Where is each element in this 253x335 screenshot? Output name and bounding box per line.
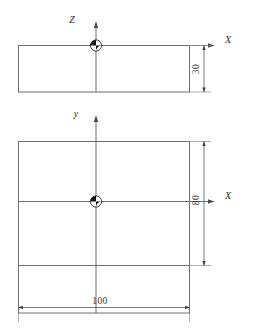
plan-view: y X 80 100 <box>19 108 232 322</box>
x-axis-label-top: X <box>224 34 232 45</box>
dim-30-value: 30 <box>191 64 201 74</box>
z-axis-label: Z <box>69 14 75 25</box>
front-view-body-outline <box>19 46 190 93</box>
center-of-gravity-icon-front <box>90 40 101 51</box>
engineering-drawing-canvas: Z X 30 <box>0 0 253 335</box>
dim-80-value: 80 <box>191 195 201 205</box>
drawing-svg-surface: Z X 30 <box>0 0 253 335</box>
x-axis-label-bottom: X <box>224 190 232 201</box>
plan-view-body-outline <box>19 142 190 314</box>
y-axis-label: y <box>73 108 79 119</box>
dim-100-value: 100 <box>92 296 107 306</box>
center-of-gravity-icon-plan <box>90 196 101 207</box>
front-elevation-view: Z X 30 <box>19 14 232 92</box>
